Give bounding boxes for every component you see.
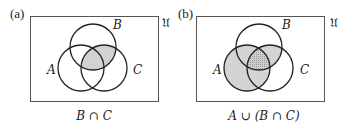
caption-b: A ∪ (B ∩ C) — [227, 109, 300, 123]
panel-label-a: (a) — [10, 6, 24, 21]
set-label-c-a: C — [133, 63, 142, 77]
set-label-a-a: A — [46, 63, 56, 77]
caption-a: B ∩ C — [75, 109, 112, 123]
panel-b: (b) 𝔘 B A C A ∪ (B ∩ C) — [178, 6, 338, 123]
set-label-b-a: B — [112, 18, 122, 32]
panel-label-b: (b) — [178, 6, 193, 21]
panel-a: (a) 𝔘 B A C B ∩ C — [10, 6, 170, 123]
universe-label-b: 𝔘 — [330, 16, 338, 30]
venn-diagram-figure: (a) 𝔘 B A C B ∩ C (b) 𝔘 — [0, 0, 358, 127]
universe-label-a: 𝔘 — [162, 16, 170, 30]
set-label-c-b: C — [300, 63, 309, 77]
set-label-b-b: B — [281, 18, 291, 32]
set-label-a-b: A — [212, 63, 222, 77]
